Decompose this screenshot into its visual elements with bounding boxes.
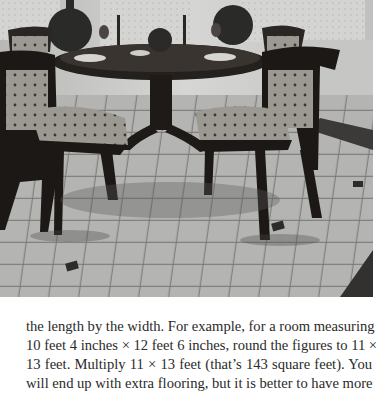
text-line: the length by the width. For example, fo… [26,317,372,336]
dining-room-photo [0,0,373,297]
text-line: will end up with extra flooring, but it … [26,374,372,393]
dining-room-illustration [0,0,373,297]
body-paragraph: the length by the width. For example, fo… [26,317,372,393]
text-line: 10 feet 4 inches × 12 feet 6 inches, rou… [26,336,372,355]
text-line: 13 feet. Multiply 11 × 13 feet (that’s 1… [26,355,372,374]
